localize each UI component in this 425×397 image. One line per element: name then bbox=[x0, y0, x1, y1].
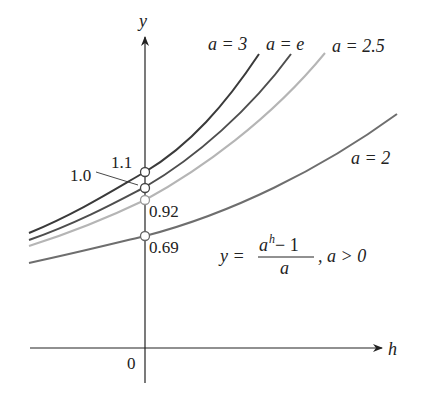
hole-a-e bbox=[141, 184, 150, 193]
label-a-2: a = 2 bbox=[351, 148, 390, 168]
svg-text:a: a bbox=[259, 235, 268, 255]
curve-a-2 bbox=[29, 114, 397, 263]
origin-label: 0 bbox=[127, 354, 136, 373]
chart-canvas: 1.1 1.0 0.92 0.69 a = 3 a = e a = 2.5 a … bbox=[0, 0, 425, 397]
svg-text:− 1: − 1 bbox=[275, 235, 299, 255]
label-a-2-5: a = 2.5 bbox=[332, 36, 385, 56]
label-1-1: 1.1 bbox=[111, 153, 132, 172]
curve-a-3 bbox=[29, 54, 259, 233]
svg-text:y =: y = bbox=[218, 246, 245, 266]
label-a-e: a = e bbox=[266, 34, 304, 54]
leader-1-0 bbox=[96, 172, 138, 185]
label-1-0: 1.0 bbox=[70, 166, 91, 185]
label-0-92: 0.92 bbox=[149, 202, 179, 221]
svg-text:, a > 0: , a > 0 bbox=[318, 246, 366, 266]
svg-text:a: a bbox=[280, 258, 289, 278]
hole-a-3 bbox=[141, 168, 150, 177]
y-axis-label: y bbox=[137, 11, 147, 31]
h-axis-label: h bbox=[388, 339, 397, 359]
label-0-69: 0.69 bbox=[149, 238, 179, 257]
label-a-3: a = 3 bbox=[208, 34, 247, 54]
formula: y = a h − 1 a , a > 0 bbox=[218, 232, 366, 278]
